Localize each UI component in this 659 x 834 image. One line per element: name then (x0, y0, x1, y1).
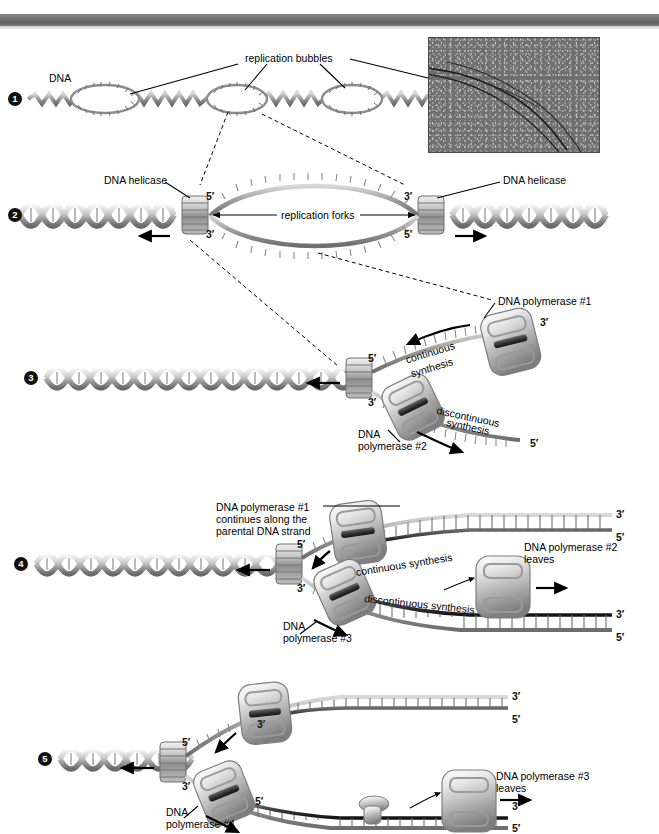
polymerase-1-label-p4-line2: continues along the (216, 513, 307, 525)
prime-p4-lagging-bottom: 5′ (616, 631, 624, 643)
prime-p3-fork-bottom: 3′ (368, 396, 376, 408)
prime-p5-fork-top: 5′ (182, 736, 190, 748)
panel5-artwork (60, 681, 530, 832)
polymerase-2-label-p3-line2: polymerase #2 (358, 440, 427, 452)
polymerase-2-leaving-p4 (476, 556, 530, 618)
prime-p5-upper-end-bottom: 5′ (512, 713, 520, 725)
polymerase-3-leaving-p5 (442, 770, 496, 832)
helicase-right (418, 196, 444, 234)
step-marker-4: 4 (14, 557, 28, 571)
prime-p4-lagging-top: 3′ (616, 608, 624, 620)
polymerase-2-label-p3-line1: DNA (358, 428, 380, 440)
replication-bubble-3 (322, 82, 382, 116)
prime-p5-lower-end-top: 3′ (512, 800, 520, 812)
prime-p5-fork-bottom: 3′ (182, 780, 190, 792)
polymerase-4-label-line2: polymerase #4 (166, 818, 235, 830)
prime-p5-lower-start: 5′ (255, 795, 263, 807)
prime-p2-top-left: 5′ (206, 190, 214, 202)
electron-micrograph (428, 37, 600, 153)
helicase-p4 (276, 544, 302, 584)
prime-p5-upper-inner: 3′ (257, 718, 265, 730)
prime-p3-fork-top: 5′ (368, 352, 376, 364)
helicase-left (182, 196, 208, 234)
prime-p4-fork-bottom: 3′ (297, 582, 305, 594)
micrograph-strands (429, 38, 599, 152)
polymerase-1-label-p3: DNA polymerase #1 (498, 295, 591, 307)
prime-p2-bottom-right: 5′ (404, 228, 412, 240)
helix-right-p2 (452, 204, 606, 226)
polymerase-1-p4 (328, 499, 388, 568)
prime-p4-leading-top: 3′ (616, 508, 624, 520)
replication-forks-label: replication forks (281, 209, 355, 221)
step-marker-1: 1 (8, 92, 22, 106)
prime-p5-lower-end-bottom: 5′ (512, 822, 520, 834)
helicase-p5 (160, 742, 186, 782)
polymerase-1-p3 (478, 305, 543, 378)
replication-bubble-2 (207, 82, 267, 116)
prime-p4-leading-bottom: 5′ (616, 531, 624, 543)
helix-left-p2 (20, 204, 174, 226)
bubble-bases-top (222, 173, 408, 205)
panel4-artwork (36, 499, 612, 635)
bubble-bases-bottom (222, 227, 408, 259)
dna-helicase-label-right: DNA helicase (503, 174, 566, 186)
polymerase-3-label-p4-line2: polymerase #3 (283, 632, 352, 644)
polymerase-3-leaves-label-line2: leaves (496, 782, 526, 794)
polymerase-upper-p5 (237, 681, 293, 746)
polymerase-3-label-p4-line1: DNA (283, 620, 305, 632)
dna-label: DNA (49, 72, 71, 84)
polymerase-4-label-line1: DNA (166, 806, 188, 818)
replication-bubbles-label: replication bubbles (245, 52, 333, 64)
replication-bubble-1 (71, 82, 139, 116)
dna-helicase-label-left: DNA helicase (104, 174, 167, 186)
polymerase-1-label-p4-line3: parental DNA strand (216, 525, 311, 537)
prime-p4-fork-top: 5′ (297, 538, 305, 550)
prime-p3-lagging-end: 5′ (530, 437, 538, 449)
step-marker-2: 2 (8, 208, 22, 222)
prime-p2-top-right: 3′ (404, 190, 412, 202)
panel1-artwork (28, 59, 443, 185)
prime-p5-upper-end-top: 3′ (512, 690, 520, 702)
polymerase-1-label-p4-line1: DNA polymerase #1 (216, 501, 309, 513)
prime-p3-leading-end: 3′ (540, 316, 548, 328)
polymerase-3-leaves-label-line1: DNA polymerase #3 (496, 770, 589, 782)
polymerase-2-leaves-label-line2: leaves (524, 553, 554, 565)
polymerase-2-leaves-label-line1: DNA polymerase #2 (524, 541, 617, 553)
step-marker-3: 3 (24, 371, 38, 385)
dna-replication-figure: 1 2 3 4 5 DNA replication bubbles DNA he… (0, 0, 659, 834)
helix-p3 (46, 368, 354, 388)
prime-p2-bottom-left: 3′ (206, 228, 214, 240)
step-marker-5: 5 (38, 752, 52, 766)
helicase-p3 (346, 358, 372, 398)
